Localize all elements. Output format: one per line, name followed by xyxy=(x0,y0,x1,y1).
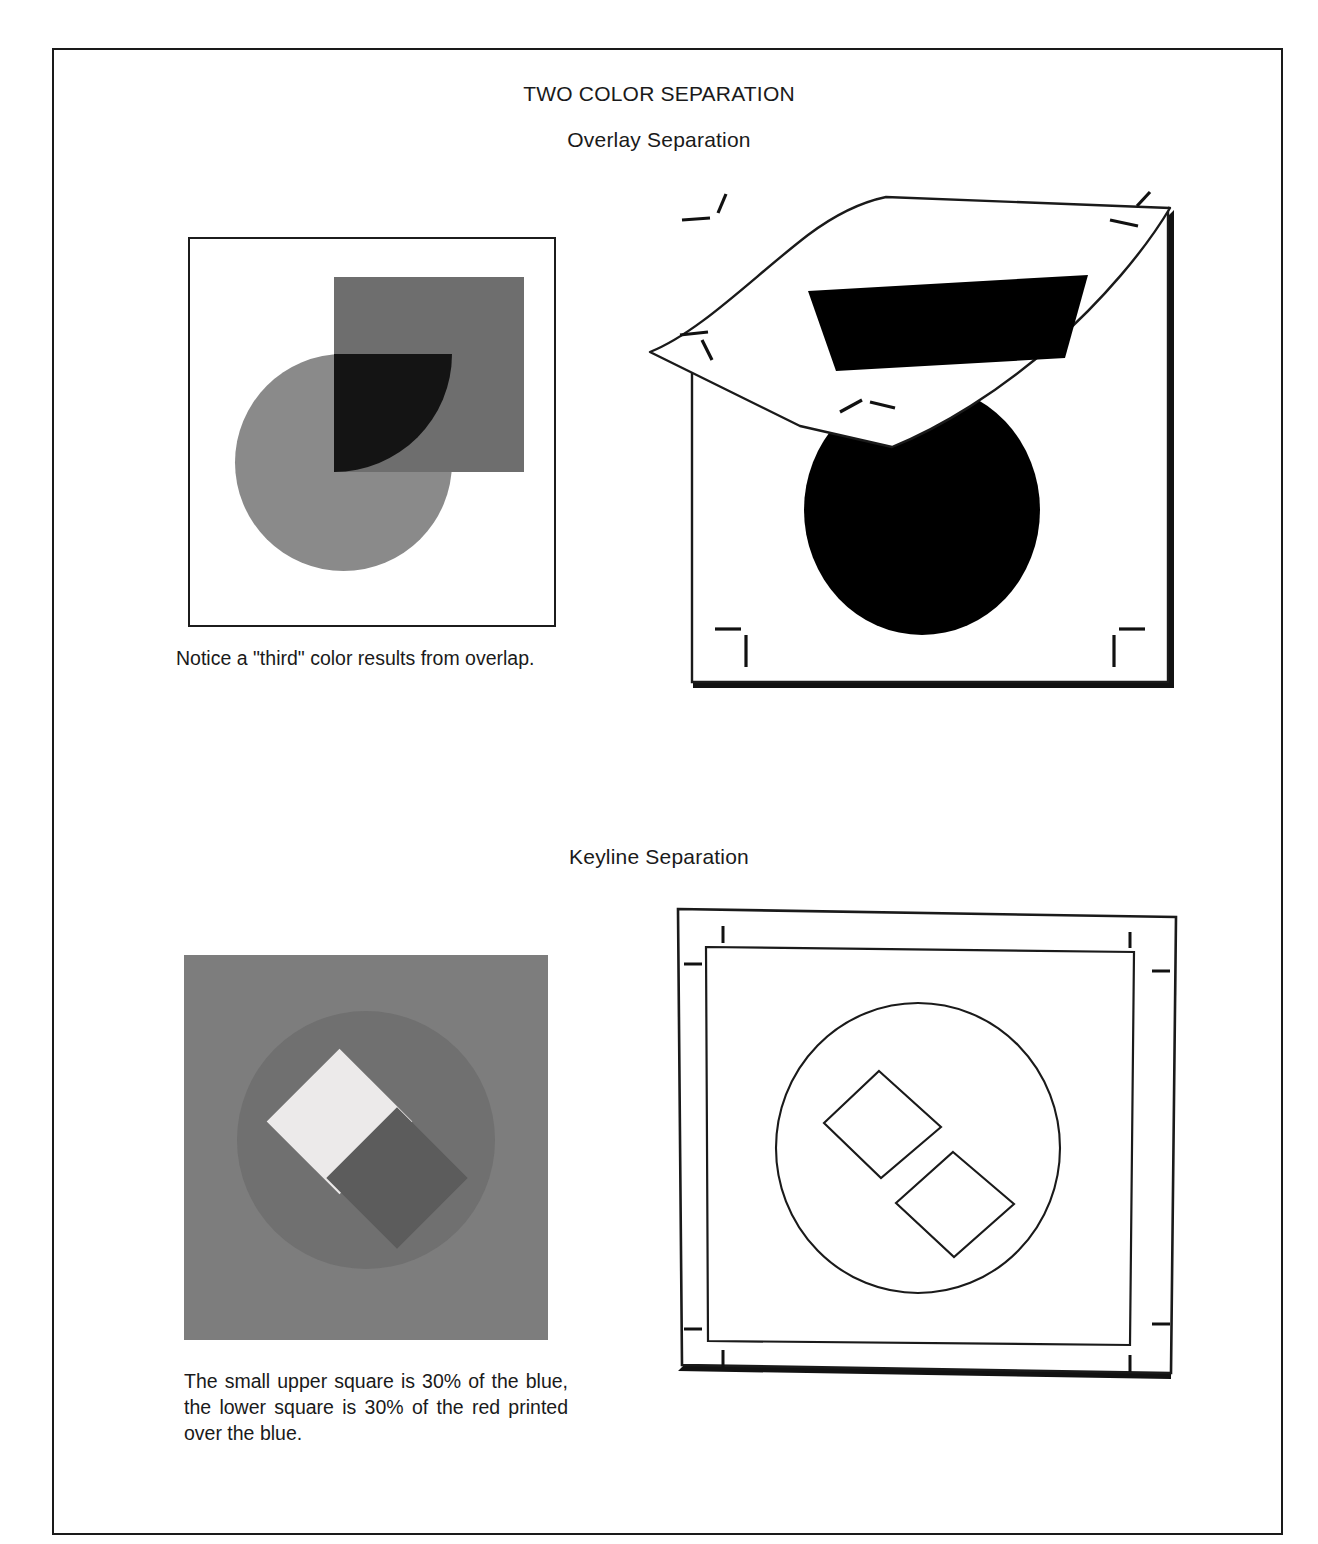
overlay-sheet-square-shape xyxy=(808,275,1088,371)
overlap-artwork xyxy=(188,237,556,627)
keyline-lineart-svg xyxy=(660,895,1220,1385)
caption-overlay-separation: Notice a "third" color results from over… xyxy=(176,645,560,671)
caption-keyline-separation: The small upper square is 30% of the blu… xyxy=(184,1368,568,1446)
overlay-boards-svg xyxy=(640,180,1220,710)
page-root: TWO COLOR SEPARATION Overlay Separation … xyxy=(0,0,1318,1544)
keyline-lineart-figure xyxy=(660,895,1220,1385)
overlay-boards-figure xyxy=(640,180,1220,710)
page-title: TWO COLOR SEPARATION xyxy=(0,82,1318,106)
section-heading-keyline: Keyline Separation xyxy=(0,845,1318,869)
keyline-color-artwork xyxy=(184,955,548,1340)
section-heading-overlay: Overlay Separation xyxy=(0,128,1318,152)
